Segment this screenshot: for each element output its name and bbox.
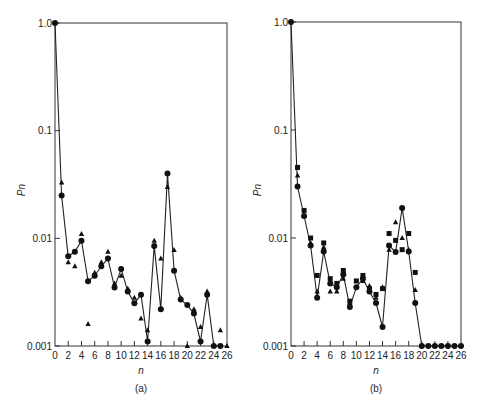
panel-a-x-tick-label: 22 xyxy=(195,350,207,361)
panel-a-triangle-point xyxy=(204,289,209,294)
panel-a-triangle-point xyxy=(191,306,196,311)
panel-a-circle-point xyxy=(171,268,177,274)
panel-a-circle-point xyxy=(217,343,223,349)
panel-b-x-tick-label: 6 xyxy=(327,350,333,361)
panel-a-triangle-point xyxy=(165,184,170,189)
panel-b-circle-point xyxy=(438,343,444,349)
panel-a-x-label: n xyxy=(138,365,144,376)
panel-a-y-tick-label: 0.01 xyxy=(33,233,53,244)
panel-b-x-tick-label: 26 xyxy=(455,350,467,361)
panel-b-circle-point xyxy=(451,343,457,349)
panel-a-x-tick-label: 6 xyxy=(92,350,98,361)
panel-b-triangle-point xyxy=(367,283,372,288)
panel-a-y-label: Pn xyxy=(16,183,27,196)
panel-b-x-tick-label: 8 xyxy=(341,350,347,361)
panel-a-circle-point xyxy=(145,339,151,345)
panel-a-triangle-point xyxy=(59,180,64,185)
panel-b-y-tick-label: 0.001 xyxy=(263,341,288,352)
panel-b-x-tick-label: 20 xyxy=(416,350,428,361)
panel-a-y-tick-label: 1.0 xyxy=(38,18,52,29)
panel-a-triangle-point xyxy=(85,321,90,326)
panel-b-square-point xyxy=(308,236,313,241)
panel-a-circle-point xyxy=(138,292,144,298)
panel-b-circle-point xyxy=(288,19,294,25)
panel-b-square-point xyxy=(406,231,411,236)
panel-a-circle-point xyxy=(211,343,217,349)
panel-a-x-tick-label: 12 xyxy=(129,350,141,361)
panel-b-square-point xyxy=(387,231,392,236)
panel-b-circle-point xyxy=(327,280,333,286)
panel-b-square-point xyxy=(334,281,339,286)
panel-b-circle-point xyxy=(393,249,399,255)
panel-a-x-tick-label: 26 xyxy=(221,350,233,361)
panel-a-circle-point xyxy=(151,243,157,249)
panel-a-series-line-circles xyxy=(55,23,220,346)
panel-a-x-tick-label: 4 xyxy=(79,350,85,361)
panel-a-triangle-point xyxy=(132,295,137,300)
panel-b-x-tick-label: 12 xyxy=(364,350,376,361)
panel-b-square-point xyxy=(315,273,320,278)
panel-a-y-tick-label: 0.1 xyxy=(38,125,52,136)
panel-a-circle-point xyxy=(184,302,190,308)
panel-b-x-tick-label: 14 xyxy=(377,350,389,361)
panel-b-circle-point xyxy=(399,205,405,211)
panel-b-circle-point xyxy=(419,343,425,349)
panel-a-x-tick-label: 20 xyxy=(182,350,194,361)
panel-a-circle-point xyxy=(65,253,71,259)
figure: 024681012141618202224261.00.10.010.001nP… xyxy=(0,0,486,403)
panel-b-square-point xyxy=(413,270,418,275)
panel-b-triangle-point xyxy=(399,235,404,240)
panel-b-x-tick-label: 2 xyxy=(301,350,307,361)
panel-b-panel-label: (b) xyxy=(370,383,382,394)
panel-a-x-tick-label: 10 xyxy=(116,350,128,361)
panel-a-x-tick-label: 14 xyxy=(142,350,154,361)
panel-b-circle-point xyxy=(432,343,438,349)
panel-a-circle-point xyxy=(158,306,164,312)
panel-b-triangle-point xyxy=(308,240,313,245)
panel-b-square-point xyxy=(302,208,307,213)
panel-a-triangle-point xyxy=(79,231,84,236)
panel-a-x-tick-label: 18 xyxy=(169,350,181,361)
panel-b-square-point xyxy=(354,278,359,283)
panel-b-x-tick-label: 22 xyxy=(429,350,441,361)
panel-b-circle-point xyxy=(321,248,327,254)
panel-b-y-tick-label: 1.0 xyxy=(274,17,288,28)
panel-a-triangle-point xyxy=(218,327,223,332)
panel-a-x-tick-label: 0 xyxy=(52,350,58,361)
panel-b-triangle-point xyxy=(314,288,319,293)
panel-b-circle-point xyxy=(458,343,464,349)
panel-b-x-tick-label: 4 xyxy=(314,350,320,361)
panel-b-triangle-point xyxy=(406,247,411,252)
panel-a-x-tick-label: 24 xyxy=(208,350,220,361)
panel-b-square-point xyxy=(341,268,346,273)
panel-a-triangle-point xyxy=(72,263,77,268)
panel-b-circle-point xyxy=(412,300,418,306)
panel-a-circle-point xyxy=(118,266,124,272)
panel-b-circle-point xyxy=(295,183,301,189)
panel-a-circle-point xyxy=(59,192,65,198)
panel-a-triangle-point xyxy=(99,259,104,264)
panel-a-x-tick-label: 16 xyxy=(155,350,167,361)
panel-a-triangle-point xyxy=(105,249,110,254)
panel-a-x-tick-label: 8 xyxy=(105,350,111,361)
panel-a-circle-point xyxy=(131,300,137,306)
panel-a-triangle-point xyxy=(138,316,143,321)
panel-b-x-tick-label: 16 xyxy=(390,350,402,361)
panel-b-x-tick-label: 10 xyxy=(351,350,363,361)
panel-a-circle-point xyxy=(198,339,204,345)
panel-a-circle-point xyxy=(78,238,84,244)
panel-a-triangle-point xyxy=(152,238,157,243)
panel-a-triangle-point xyxy=(66,259,71,264)
panel-b-square-point xyxy=(400,247,405,252)
panel-a-circle-point xyxy=(85,278,91,284)
panel-b-triangle-point xyxy=(393,219,398,224)
panel-b-square-point xyxy=(360,273,365,278)
panel-a-circle-point xyxy=(164,171,170,177)
panel-b-circle-point xyxy=(314,295,320,301)
panel-a-circle-point xyxy=(191,311,197,317)
panel-a-circle-point xyxy=(105,255,111,261)
panel-a-circle-point xyxy=(52,20,58,26)
panel-b-y-label: Pn xyxy=(252,183,263,196)
panel-a-panel-label: (a) xyxy=(135,383,147,394)
panel-a-x-tick-label: 2 xyxy=(65,350,71,361)
